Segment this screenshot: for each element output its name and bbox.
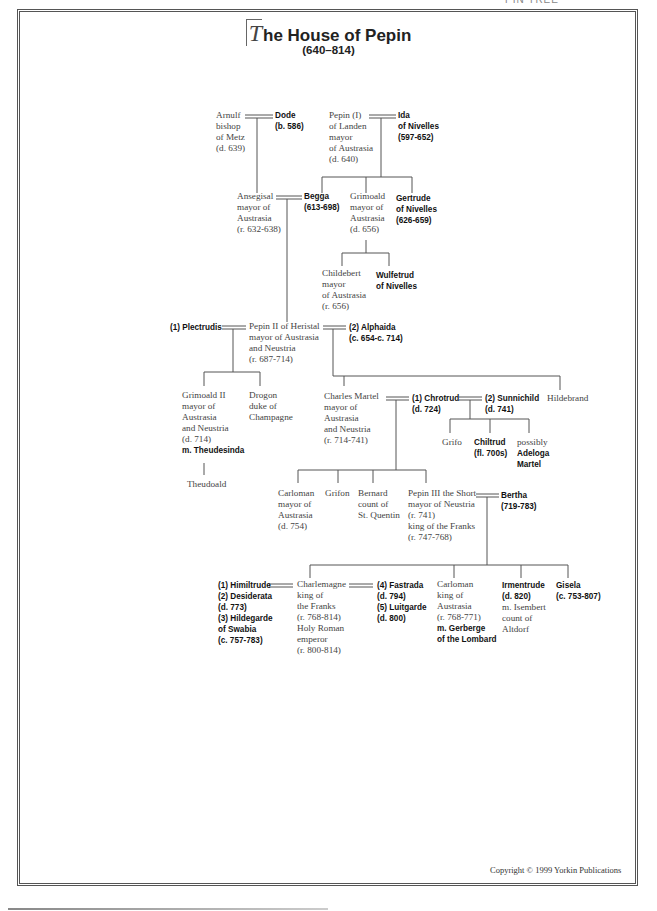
person-sunnichild: (2) Sunnichild (d. 741) <box>485 393 539 415</box>
spouse: of the Lombard <box>437 634 497 645</box>
detail: mayor <box>329 132 373 143</box>
detail: mayor of <box>350 202 385 213</box>
name: Charlemagne <box>297 579 346 590</box>
name: Grimoald <box>350 191 385 202</box>
detail: the Franks <box>297 601 346 612</box>
person-alphaida: (2) Alphaida (c. 654-c. 714) <box>349 322 403 344</box>
detail: of Metz <box>216 132 245 143</box>
detail: king of <box>297 590 346 601</box>
detail: and Neustria <box>249 343 320 354</box>
detail: and Neustria <box>182 423 244 434</box>
detail: bishop <box>216 121 245 132</box>
detail: (d. 741) <box>485 404 539 415</box>
person-grimoald: Grimoald mayor of Austrasia (d. 656) <box>350 191 385 235</box>
person-pepin-ii: Pepin II of Heristal mayor of Austrasia … <box>249 321 320 365</box>
detail: Holy Roman <box>297 623 346 634</box>
person-pepin-iii: Pepin III the Short mayor of Neustria (r… <box>408 488 476 543</box>
detail: mayor of <box>278 499 314 510</box>
person-chrotrud: (1) Chrotrud (d. 724) <box>412 393 459 415</box>
detail: (r. 714-741) <box>324 435 379 446</box>
name: Adeloga <box>517 448 549 459</box>
detail: (597-652) <box>398 132 439 143</box>
name: Pepin III the Short <box>408 488 476 499</box>
person-pepin-i: Pepin (I) of Landen mayor of Austrasia (… <box>329 110 373 165</box>
name: (2) Desiderata <box>218 591 273 602</box>
detail: king of the Franks <box>408 521 476 532</box>
detail: (613-698) <box>304 202 340 213</box>
spouse: m. Gerberge <box>437 623 497 634</box>
detail: Austrasia <box>237 213 281 224</box>
name: Drogon <box>249 390 293 401</box>
detail: St. Quentin <box>358 510 400 521</box>
name: (3) Hildegarde <box>218 613 273 624</box>
name: (1) Himiltrude <box>218 580 273 591</box>
detail: (c. 757-783) <box>218 635 273 646</box>
name: Carloman <box>437 579 497 590</box>
person-childebert: Childebert mayor of Austrasia (r. 656) <box>322 268 366 312</box>
name: Irmentrude <box>502 580 546 591</box>
person-arnulf: Arnulf bishop of Metz (d. 639) <box>216 110 245 154</box>
name: (2) Alphaida <box>349 322 403 333</box>
name: (1) Plectrudis <box>170 322 222 333</box>
detail: (r. 768-814) <box>297 612 346 623</box>
name: Chiltrud <box>474 437 507 448</box>
person-wulfetrud: Wulfetrud of Nivelles <box>376 270 417 292</box>
detail: (r. 687-714) <box>249 354 320 365</box>
detail: Champagne <box>249 412 293 423</box>
name: Ida <box>398 110 439 121</box>
detail: (r. 800-814) <box>297 645 346 656</box>
person-hildebrand: Hildebrand <box>547 393 588 404</box>
detail: Altdorf <box>502 624 546 635</box>
name: Bernard <box>358 488 400 499</box>
person-carloman-king: Carloman king of Austrasia (r. 768-771) … <box>437 579 497 645</box>
detail: (c. 753-807) <box>556 591 601 602</box>
name: Bertha <box>501 490 537 501</box>
name: Begga <box>304 191 340 202</box>
detail: of Nivelles <box>396 204 437 215</box>
detail: duke of <box>249 401 293 412</box>
detail: mayor of <box>324 402 379 413</box>
person-bertha: Bertha (719-783) <box>501 490 537 512</box>
name: Pepin II of Heristal <box>249 321 320 332</box>
detail: (fl. 700s) <box>474 448 507 459</box>
detail: mayor of <box>182 401 244 412</box>
detail: mayor of <box>237 202 281 213</box>
name: Grimoald II <box>182 390 244 401</box>
name: Wulfetrud <box>376 270 417 281</box>
detail: mayor <box>322 279 366 290</box>
person-theudoald: Theudoald <box>187 479 226 490</box>
spouse: m. Theudesinda <box>182 445 244 456</box>
person-carloman-mayor: Carloman mayor of Austrasia (d. 754) <box>278 488 314 532</box>
detail: Austrasia <box>182 412 244 423</box>
detail: count of <box>358 499 400 510</box>
name: Arnulf <box>216 110 245 121</box>
person-irmentrude: Irmentrude (d. 820) m. Isembert count of… <box>502 580 546 635</box>
copyright-notice: Copyright © 1999 Yorkin Publications <box>490 865 621 875</box>
detail: (r. 768-771) <box>437 612 497 623</box>
name: Childebert <box>322 268 366 279</box>
detail: of Swabia <box>218 624 273 635</box>
name: Gertrude <box>396 193 437 204</box>
name: Grifon <box>325 488 350 499</box>
person-gisela: Gisela (c. 753-807) <box>556 580 601 602</box>
detail: mayor of Austrasia <box>249 332 320 343</box>
detail: (d. 640) <box>329 154 373 165</box>
person-charles-martel: Charles Martel mayor of Austrasia and Ne… <box>324 391 379 446</box>
detail: (719-783) <box>501 501 537 512</box>
detail: (d. 714) <box>182 434 244 445</box>
name: Martel <box>517 459 549 470</box>
name: Dode <box>275 110 304 121</box>
detail: of Nivelles <box>376 281 417 292</box>
name: (2) Sunnichild <box>485 393 539 404</box>
detail: (r. 747-768) <box>408 532 476 543</box>
detail: Austrasia <box>350 213 385 224</box>
detail: (b. 586) <box>275 121 304 132</box>
spouse: m. Isembert <box>502 602 546 613</box>
detail: and Neustria <box>324 424 379 435</box>
person-chiltrud: Chiltrud (fl. 700s) <box>474 437 507 459</box>
person-dode: Dode (b. 586) <box>275 110 304 132</box>
person-plectrudis: (1) Plectrudis <box>170 322 222 333</box>
detail: (626-659) <box>396 215 437 226</box>
detail: Austrasia <box>278 510 314 521</box>
person-begga: Begga (613-698) <box>304 191 340 213</box>
